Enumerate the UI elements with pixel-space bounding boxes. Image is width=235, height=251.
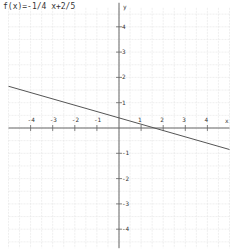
y-tick-label: 4	[122, 23, 126, 30]
x-tick-label: 1	[138, 116, 142, 123]
plot-area: -4-3-2-112344321-1-2-3-4 x y	[0, 0, 235, 251]
y-tick-label: 1	[122, 99, 126, 106]
x-tick-label: 2	[160, 116, 164, 123]
y-tick-label: 2	[122, 73, 126, 80]
y-tick-label: -3	[122, 200, 130, 207]
x-tick-label: -1	[94, 116, 102, 123]
y-tick-label: -4	[122, 225, 130, 232]
y-tick-label: -2	[122, 175, 130, 182]
x-tick-label: -2	[72, 116, 80, 123]
y-axis-label: y	[123, 3, 127, 11]
y-tick-label: -1	[122, 149, 130, 156]
x-tick-label: 3	[182, 116, 186, 123]
x-axis-label: x	[225, 117, 229, 124]
x-tick-label: -3	[50, 116, 58, 123]
x-tick-label: 4	[204, 116, 208, 123]
y-tick-label: 3	[122, 48, 126, 55]
x-tick-label: -4	[28, 116, 36, 123]
